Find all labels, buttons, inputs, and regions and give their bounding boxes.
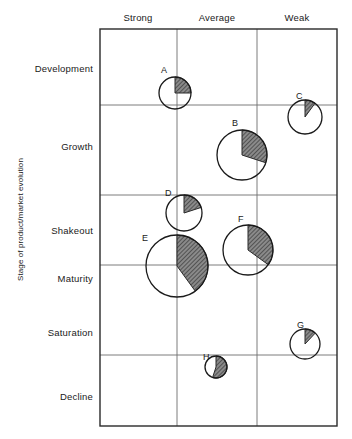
bubble-label-D: D <box>165 188 172 198</box>
bubble-label-G: G <box>297 320 304 330</box>
bubble-label-A: A <box>161 65 167 75</box>
chart-plot-area <box>0 0 352 439</box>
chart-page: Stage of product/market evolution Strong… <box>0 0 352 439</box>
bubble-label-F: F <box>238 214 244 224</box>
bubble-label-E: E <box>142 233 148 243</box>
bubble-share-wedge-B[interactable] <box>242 130 267 163</box>
bubble-label-B: B <box>232 118 238 128</box>
bubble-label-H: H <box>203 352 210 362</box>
bubble-share-wedge-H[interactable] <box>213 356 227 378</box>
bubble-label-C: C <box>296 91 303 101</box>
bubble-share-wedge-F[interactable] <box>248 225 273 265</box>
